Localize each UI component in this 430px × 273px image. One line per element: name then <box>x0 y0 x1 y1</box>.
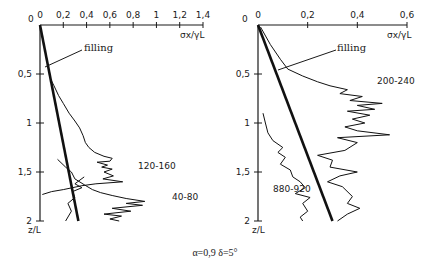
series-line-880-920 <box>263 113 310 221</box>
x-tick-label: 0,4 <box>79 10 94 20</box>
y-tick-label: 1,5 <box>18 167 32 177</box>
y-tick-label: 1 <box>26 118 32 128</box>
left-y-axis-label: z/L <box>28 225 41 235</box>
right-x-axis-label: σx/γL <box>387 30 411 40</box>
left-filling-label: filling <box>84 42 114 53</box>
x-tick-label: 0,2 <box>301 10 315 20</box>
y-tick-label: 1,5 <box>236 167 250 177</box>
y-tick-label: 0,5 <box>236 69 250 79</box>
x-tick-label: 0,4 <box>350 10 365 20</box>
x-tick-label: 0 <box>37 10 43 20</box>
left-filling-leader <box>45 50 82 67</box>
y-tick-label: 1 <box>244 118 250 128</box>
left-series <box>40 25 145 221</box>
figure-caption: α=0,9 δ=5° <box>0 247 430 258</box>
y-tick-label: 2 <box>244 216 250 226</box>
x-tick-label: 1,4 <box>196 10 211 20</box>
right-label-200-240: 200-240 <box>377 76 415 86</box>
left-x-axis-label: σx/γL <box>180 30 204 40</box>
right-y-axis-label: z/L <box>252 225 265 235</box>
left-label-40-80: 40-80 <box>172 192 198 202</box>
x-tick-label: 0,2 <box>56 10 70 20</box>
figure: 0 00,20,40,60,811,21,4 0,511,52 σx/γL z/… <box>0 0 430 273</box>
x-tick-label: 0,8 <box>126 10 141 20</box>
x-tick-label: 0,6 <box>400 10 415 20</box>
right-origin-zero: 0 <box>242 14 248 24</box>
x-tick-label: 0,6 <box>103 10 118 20</box>
x-tick-label: 1,2 <box>173 10 187 20</box>
right-chart: 0 00,20,40,6 0,511,52 σx/γL z/L filling … <box>236 10 415 235</box>
right-filling-leader <box>278 50 336 70</box>
x-tick-label: 0 <box>255 10 261 20</box>
left-chart: 0 00,20,40,60,811,21,4 0,511,52 σx/γL z/… <box>18 10 211 235</box>
left-origin-zero: 0 <box>28 14 34 24</box>
left-label-120-160: 120-160 <box>138 161 176 171</box>
right-filling-label: filling <box>337 42 367 53</box>
y-tick-label: 0,5 <box>18 69 32 79</box>
x-tick-label: 1 <box>154 10 160 20</box>
right-label-880-920: 880-920 <box>273 184 311 194</box>
